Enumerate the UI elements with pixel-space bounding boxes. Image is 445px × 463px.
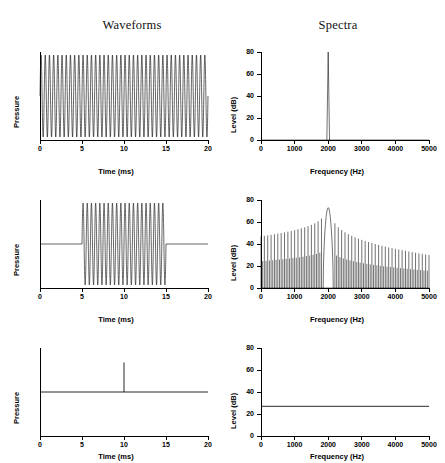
row3-spectrum-xticklabel-5: 5000 bbox=[416, 441, 442, 448]
row2-spectrum-mainlobe bbox=[323, 208, 333, 288]
row2-waveform-trace bbox=[40, 203, 208, 285]
row1-waveform-xticklabel-1: 5 bbox=[69, 145, 95, 152]
row2-spectrum-xticklabel-3: 3000 bbox=[349, 293, 375, 300]
column-title-waveforms: Waveforms bbox=[52, 18, 212, 33]
row1-spectrum-xticklabel-0: 0 bbox=[248, 145, 274, 152]
row1-waveform-xticklabel-2: 10 bbox=[111, 145, 137, 152]
row1-spectrum-xticklabel-5: 5000 bbox=[416, 145, 442, 152]
plot-row2-waveform bbox=[22, 196, 210, 304]
row2-spectrum-yticklabel-0: 0 bbox=[236, 284, 254, 291]
panel-row2-spectrum bbox=[243, 196, 431, 304]
row2-spectrum-yticklabel-3: 60 bbox=[236, 218, 254, 225]
row3-waveform-xticklabel-0: 0 bbox=[27, 441, 53, 448]
row3-waveform-xticklabel-1: 5 bbox=[69, 441, 95, 448]
row2-waveform-xticklabel-3: 15 bbox=[153, 293, 179, 300]
row1-spectrum-xticklabel-4: 4000 bbox=[382, 145, 408, 152]
row1-spectrum-yticklabel-3: 60 bbox=[236, 70, 254, 77]
row1-waveform-xticklabel-0: 0 bbox=[27, 145, 53, 152]
row3-spectrum-yticklabel-2: 40 bbox=[236, 388, 254, 395]
row2-spectrum-xticklabel-2: 2000 bbox=[315, 293, 341, 300]
row1-waveform-trace bbox=[40, 55, 208, 137]
panel-row1-spectrum bbox=[243, 48, 431, 156]
row2-spectrum-xticklabel-4: 4000 bbox=[382, 293, 408, 300]
panel-row2-waveform bbox=[22, 196, 210, 304]
ylabel-row2-pressure: Pressure bbox=[12, 244, 21, 276]
row1-spectrum-xticklabel-3: 3000 bbox=[349, 145, 375, 152]
row1-spectrum-yticklabel-2: 40 bbox=[236, 92, 254, 99]
row3-spectrum-xticklabel-3: 3000 bbox=[349, 441, 375, 448]
row2-spectrum-yticklabel-4: 80 bbox=[236, 196, 254, 203]
ylabel-row3-pressure: Pressure bbox=[12, 392, 21, 424]
row2-spectrum-xticklabel-1: 1000 bbox=[282, 293, 308, 300]
row3-spectrum-yticklabel-1: 20 bbox=[236, 410, 254, 417]
row2-spectrum-xticklabel-0: 0 bbox=[248, 293, 274, 300]
row2-waveform-xticklabel-4: 20 bbox=[195, 293, 221, 300]
row3-spectrum-xticklabel-1: 1000 bbox=[282, 441, 308, 448]
row2-spectrum-yticklabel-2: 40 bbox=[236, 240, 254, 247]
xlabel-row2-time: Time (ms) bbox=[56, 315, 176, 324]
xlabel-row1-frequency: Frequency (Hz) bbox=[277, 167, 397, 176]
row1-waveform-xticklabel-4: 20 bbox=[195, 145, 221, 152]
row2-waveform-xticklabel-0: 0 bbox=[27, 293, 53, 300]
row3-spectrum-xticklabel-0: 0 bbox=[248, 441, 274, 448]
row1-spectrum-yticklabel-1: 20 bbox=[236, 114, 254, 121]
panel-row3-waveform bbox=[22, 344, 210, 452]
row2-waveform-xticklabel-2: 10 bbox=[111, 293, 137, 300]
row1-spectrum-peak bbox=[327, 52, 330, 140]
column-title-spectra: Spectra bbox=[268, 18, 408, 33]
figure-waveforms-spectra: Waveforms Spectra Pressure Time (ms) Lev… bbox=[0, 0, 445, 463]
row3-waveform-xticklabel-4: 20 bbox=[195, 441, 221, 448]
xlabel-row1-time: Time (ms) bbox=[56, 167, 176, 176]
row1-spectrum-xticklabel-2: 2000 bbox=[315, 145, 341, 152]
xlabel-row2-frequency: Frequency (Hz) bbox=[277, 315, 397, 324]
panel-row3-spectrum bbox=[243, 344, 431, 452]
plot-row3-waveform bbox=[22, 344, 210, 452]
row2-spectrum-xticklabel-5: 5000 bbox=[416, 293, 442, 300]
row3-spectrum-yticklabel-3: 60 bbox=[236, 366, 254, 373]
row3-spectrum-yticklabel-4: 80 bbox=[236, 344, 254, 351]
xlabel-row3-frequency: Frequency (Hz) bbox=[277, 452, 397, 461]
row3-spectrum-xticklabel-4: 4000 bbox=[382, 441, 408, 448]
row1-spectrum-xticklabel-1: 1000 bbox=[282, 145, 308, 152]
row3-spectrum-xticklabel-2: 2000 bbox=[315, 441, 341, 448]
row3-waveform-xticklabel-2: 10 bbox=[111, 441, 137, 448]
plot-row1-waveform bbox=[22, 48, 210, 156]
ylabel-row1-pressure: Pressure bbox=[12, 96, 21, 128]
plot-row2-spectrum bbox=[243, 196, 431, 304]
row3-spectrum-yticklabel-0: 0 bbox=[236, 432, 254, 439]
row1-spectrum-yticklabel-4: 80 bbox=[236, 48, 254, 55]
xlabel-row3-time: Time (ms) bbox=[56, 452, 176, 461]
row2-spectrum-sidelobes bbox=[261, 219, 429, 288]
row2-waveform-xticklabel-1: 5 bbox=[69, 293, 95, 300]
row1-waveform-xticklabel-3: 15 bbox=[153, 145, 179, 152]
plot-row3-spectrum bbox=[243, 344, 431, 452]
row3-waveform-xticklabel-3: 15 bbox=[153, 441, 179, 448]
row1-spectrum-yticklabel-0: 0 bbox=[236, 136, 254, 143]
row2-spectrum-yticklabel-1: 20 bbox=[236, 262, 254, 269]
panel-row1-waveform bbox=[22, 48, 210, 156]
plot-row1-spectrum bbox=[243, 48, 431, 156]
